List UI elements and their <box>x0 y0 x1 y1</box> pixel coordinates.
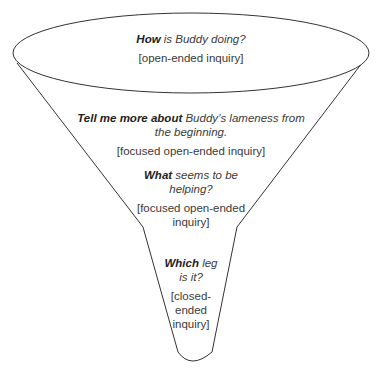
stage-1-type: [open-ended inquiry] <box>91 51 291 65</box>
stage-1-label: How is Buddy doing? [open-ended inquiry] <box>91 32 291 65</box>
stage-4-question: Which leg is it? <box>163 256 219 284</box>
stage-3-label: What seems to be helping? [focused open-… <box>133 168 249 229</box>
stage-2-label: Tell me more about Buddy’s lameness from… <box>71 111 311 158</box>
stage-4-label: Which leg is it? [closed-ended inquiry] <box>163 256 219 331</box>
stage-1-question: How is Buddy doing? <box>91 32 291 46</box>
stage-2-type: [focused open-ended inquiry] <box>71 144 311 158</box>
stage-2-question: Tell me more about Buddy’s lameness from… <box>71 111 311 139</box>
stage-4-type: [closed-ended inquiry] <box>163 289 219 331</box>
stage-3-question: What seems to be helping? <box>133 168 249 196</box>
stage-3-type: [focused open-ended inquiry] <box>133 201 249 229</box>
